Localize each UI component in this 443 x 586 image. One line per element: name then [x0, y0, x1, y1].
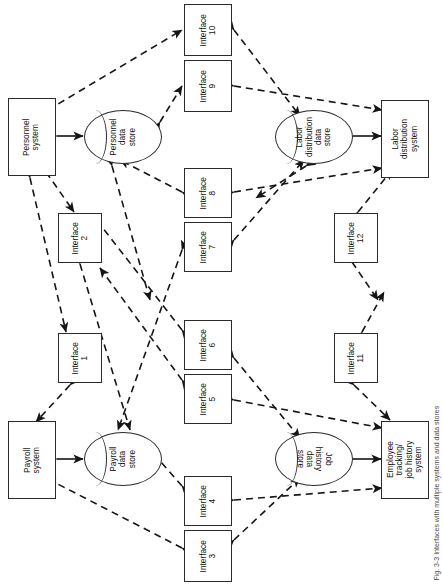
data-store-personnel-data-store[interactable]: Personneldatastore	[84, 110, 162, 164]
interface-box-11[interactable]: Interface 11	[334, 333, 378, 383]
interface-6-line2: 6	[207, 343, 217, 348]
interface-box-12[interactable]: Interface 12	[334, 213, 378, 263]
interface-10-line2: 10	[207, 25, 217, 34]
system-employee-tracking-system-label: Employeetracking/job historysystem	[386, 441, 423, 479]
conn-interface-12-to-job-history-store	[352, 262, 378, 300]
interface-box-6[interactable]: Interface 6	[184, 320, 232, 370]
figure-caption-text: Fig. 3-3 Interfaces with multiple system…	[433, 318, 440, 581]
conn-personnel-system-to-interface-2	[46, 172, 74, 212]
interface-4-line2: 4	[207, 499, 217, 504]
data-store-job-history-data-store[interactable]: Jobhistorydatastore	[275, 432, 353, 486]
conn-interface-1-to-payroll-system	[36, 385, 70, 422]
system-personnel-system[interactable]: Personnelsystem	[8, 98, 56, 176]
interface-11-line2: 11	[355, 354, 365, 363]
interface-box-3[interactable]: Interface 3	[184, 530, 232, 582]
data-store-personnel-data-store-label: Personneldatastore	[96, 98, 150, 176]
conn-personnel-store-to-interface-9	[160, 86, 182, 122]
data-store-payroll-data-store[interactable]: Payrolldatastore	[84, 432, 162, 486]
figure-caption: Fig. 3-3 Interfaces with multiple system…	[429, 318, 443, 584]
interface-box-4[interactable]: Interface 4	[184, 476, 232, 526]
system-payroll-system[interactable]: Payrollsystem	[8, 421, 56, 499]
system-payroll-system-label: Payrollsystem	[23, 447, 42, 473]
data-store-labor-distribution-data-store-label: Labordistributiondatastore	[287, 98, 341, 176]
data-store-labor-distribution-data-store[interactable]: Labordistributiondatastore	[275, 110, 353, 164]
conn-interface-11-to-employee-tracking	[354, 385, 390, 420]
interface-box-7[interactable]: Interface 7	[184, 222, 232, 272]
system-personnel-system-label: Personnelsystem	[23, 118, 42, 155]
interface-box-10[interactable]: Interface 10	[184, 4, 232, 56]
interface-7-line2: 7	[207, 245, 217, 250]
diagram-canvas: Personnelsystem Labordistributionsystem …	[0, 0, 443, 586]
system-labor-distribution-system[interactable]: Labordistributionsystem	[381, 100, 429, 178]
interface-box-1[interactable]: Interface 1	[58, 333, 102, 383]
interface-box-9[interactable]: Interface 9	[184, 60, 232, 112]
system-employee-tracking-system[interactable]: Employeetracking/job historysystem	[381, 421, 429, 499]
interface-8-line2: 8	[207, 191, 217, 196]
interface-9-line2: 9	[207, 84, 217, 89]
data-store-payroll-data-store-label: Payrolldatastore	[96, 420, 150, 498]
system-labor-distribution-system-label: Labordistributionsystem	[391, 119, 419, 159]
conn-interface-6-to-payroll-store	[92, 214, 182, 330]
interface-5-line2: 5	[207, 397, 217, 402]
interface-box-5[interactable]: Interface 5	[184, 374, 232, 424]
conn-personnel-store-to-payroll-cross	[112, 166, 150, 300]
interface-12-line2: 12	[355, 233, 365, 242]
interface-3-line2: 3	[207, 554, 217, 559]
interface-1-line2: 1	[79, 356, 89, 361]
interface-2-line2: 2	[79, 236, 89, 241]
data-store-job-history-data-store-label: Jobhistorydatastore	[287, 420, 341, 498]
conn-interface-11-to-labor-store	[362, 292, 384, 332]
interface-box-8[interactable]: Interface 8	[184, 168, 232, 218]
interface-box-2[interactable]: Interface 2	[58, 213, 102, 263]
conn-interface-7-to-payroll-store	[118, 250, 182, 430]
